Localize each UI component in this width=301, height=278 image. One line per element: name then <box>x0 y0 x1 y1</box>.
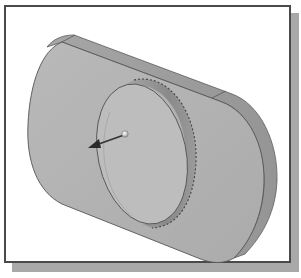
figure-frame <box>4 5 291 263</box>
cad-viewport <box>2 2 301 278</box>
arrow-origin-ball <box>122 131 128 137</box>
